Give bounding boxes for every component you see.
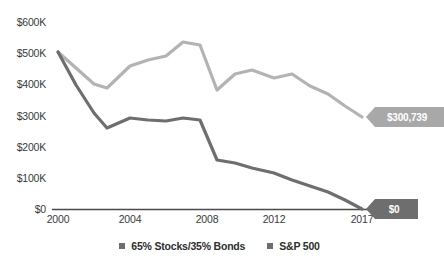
- legend-item-balanced[interactable]: 65% Stocks/35% Bonds: [119, 240, 245, 252]
- series-line-sp500: [58, 42, 362, 117]
- legend-label-balanced: 65% Stocks/35% Bonds: [131, 240, 245, 252]
- sp500-end-callout: $300,739: [366, 107, 444, 127]
- legend-label-sp500: S&P 500: [279, 240, 319, 252]
- chart-legend: 65% Stocks/35% Bonds S&P 500: [0, 240, 439, 252]
- x-axis-label-2008: 2008: [180, 213, 234, 225]
- legend-swatch-icon: [267, 243, 273, 249]
- x-axis-label-2000: 2000: [31, 213, 85, 225]
- x-axis-label-2012: 2012: [247, 213, 301, 225]
- legend-item-sp500[interactable]: S&P 500: [267, 240, 319, 252]
- legend-swatch-icon: [119, 243, 125, 249]
- x-axis-label-2004: 2004: [103, 213, 157, 225]
- balanced-end-callout: $0: [366, 199, 418, 219]
